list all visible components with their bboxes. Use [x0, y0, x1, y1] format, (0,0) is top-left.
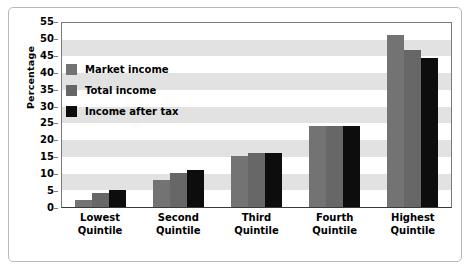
- chart-figure: Percentage 0510152025303540455055 Lowest…: [0, 0, 470, 269]
- y-axis-tick-label: 0: [47, 203, 54, 213]
- legend-label: Total income: [85, 85, 156, 96]
- y-axis-tick-mark: [54, 56, 58, 57]
- legend-swatch-icon: [66, 106, 77, 117]
- chart-legend: Market incomeTotal incomeIncome after ta…: [66, 60, 178, 123]
- y-axis-tick-mark: [54, 157, 58, 158]
- y-axis-tick-label: 20: [40, 135, 54, 145]
- bar: [109, 190, 126, 207]
- y-axis-tick-mark: [54, 90, 58, 91]
- y-axis-tick-mark: [54, 140, 58, 141]
- legend-item: Market income: [66, 60, 178, 78]
- bar: [387, 35, 404, 207]
- x-axis-tick-label: Third Quintile: [234, 211, 279, 245]
- x-axis-tick-labels: Lowest QuintileSecond QuintileThird Quin…: [61, 211, 452, 245]
- x-axis-tick-label: Highest Quintile: [391, 211, 436, 245]
- y-axis-tick-mark: [54, 22, 58, 23]
- bar: [187, 170, 204, 207]
- y-axis-tick-mark: [54, 73, 58, 74]
- legend-swatch-icon: [66, 85, 77, 96]
- bar: [404, 50, 421, 207]
- bar: [170, 173, 187, 207]
- x-axis-tick-label: Fourth Quintile: [312, 211, 357, 245]
- y-axis-tick-label: 30: [40, 102, 54, 112]
- bar: [75, 200, 92, 207]
- bar: [92, 193, 109, 207]
- y-axis-tick-label: 15: [40, 152, 54, 162]
- bar: [248, 153, 265, 207]
- legend-label: Market income: [85, 64, 169, 75]
- bar: [326, 126, 343, 207]
- bar: [421, 58, 438, 207]
- y-axis-tick-mark: [54, 191, 58, 192]
- bar: [231, 156, 248, 207]
- y-axis-tick-label: 5: [47, 186, 54, 196]
- legend-item: Total income: [66, 81, 178, 99]
- y-axis-tick-label: 50: [40, 34, 54, 44]
- y-axis-tick-mark: [54, 208, 58, 209]
- bar: [265, 153, 282, 207]
- y-axis-tick-label: 55: [40, 17, 54, 27]
- bar: [309, 126, 326, 207]
- y-axis-tick-label: 25: [40, 118, 54, 128]
- y-axis-tick-label: 45: [40, 51, 54, 61]
- y-axis-tick-mark: [54, 39, 58, 40]
- bar-group: [387, 23, 438, 207]
- bar-group: [309, 23, 360, 207]
- bar: [343, 126, 360, 207]
- x-axis-tick-label: Second Quintile: [156, 211, 201, 245]
- y-axis-tick-label: 10: [40, 169, 54, 179]
- x-axis-tick-label: Lowest Quintile: [78, 211, 123, 245]
- legend-swatch-icon: [66, 64, 77, 75]
- y-axis-tick-labels: 0510152025303540455055: [22, 22, 58, 208]
- y-axis-tick-mark: [54, 123, 58, 124]
- bar: [153, 180, 170, 207]
- y-axis-tick-label: 40: [40, 68, 54, 78]
- legend-item: Income after tax: [66, 102, 178, 120]
- legend-label: Income after tax: [85, 106, 178, 117]
- y-axis-tick-mark: [54, 174, 58, 175]
- y-axis-tick-label: 35: [40, 85, 54, 95]
- bar-group: [231, 23, 282, 207]
- y-axis-tick-mark: [54, 107, 58, 108]
